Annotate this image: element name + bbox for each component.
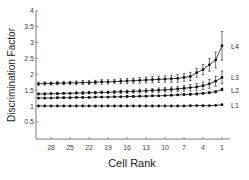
data-point	[69, 96, 72, 99]
data-point	[62, 96, 65, 99]
data-point	[151, 78, 154, 81]
data-point	[75, 92, 78, 95]
data-point	[107, 81, 110, 84]
data-point	[56, 96, 59, 99]
data-point	[145, 79, 148, 82]
data-point	[195, 86, 198, 89]
series-label-l1: L1	[231, 102, 239, 109]
data-point	[145, 95, 148, 98]
data-point	[183, 87, 186, 90]
data-point	[164, 105, 167, 108]
data-point	[126, 90, 129, 93]
data-point	[176, 105, 179, 108]
data-point	[202, 104, 205, 107]
series-l1: L1	[37, 102, 239, 109]
data-point	[75, 105, 78, 108]
data-point	[157, 89, 160, 92]
data-point	[69, 81, 72, 84]
data-point	[126, 105, 129, 108]
data-point	[100, 105, 103, 108]
data-point	[176, 94, 179, 97]
data-point	[107, 96, 110, 99]
data-point	[69, 105, 72, 108]
data-point	[132, 79, 135, 82]
data-point	[100, 96, 103, 99]
data-point	[195, 93, 198, 96]
data-point	[88, 105, 91, 108]
data-point	[221, 103, 224, 106]
data-point	[62, 105, 65, 108]
data-point	[138, 79, 141, 82]
data-point	[170, 77, 173, 80]
data-point	[138, 90, 141, 93]
data-point	[170, 105, 173, 108]
data-point	[43, 82, 46, 85]
data-point	[176, 87, 179, 90]
y-tick-label: 1.5	[24, 87, 34, 94]
series-label-l2: L2	[231, 87, 239, 94]
data-point	[107, 91, 110, 94]
y-tick-label: 1	[30, 103, 34, 110]
data-point	[62, 92, 65, 95]
y-tick-label: 0.5	[24, 118, 34, 125]
data-point	[119, 90, 122, 93]
data-point	[113, 105, 116, 108]
data-point	[113, 91, 116, 94]
data-point	[88, 96, 91, 99]
data-point	[113, 80, 116, 83]
data-point	[107, 105, 110, 108]
data-point	[138, 95, 141, 98]
series-l4: L4	[37, 32, 239, 86]
discrimination-factor-chart: 0.511.522.533.5428252219161310741 L4L3L2…	[0, 0, 249, 180]
data-point	[157, 94, 160, 97]
x-tick-label: 16	[123, 144, 131, 151]
data-point	[214, 90, 217, 93]
data-point	[94, 91, 97, 94]
series-label-l4: L4	[231, 43, 239, 50]
data-point	[94, 81, 97, 84]
data-point	[221, 88, 224, 91]
data-point	[56, 105, 59, 108]
data-point	[164, 88, 167, 91]
data-point	[88, 81, 91, 84]
data-point	[119, 105, 122, 108]
data-point	[50, 105, 53, 108]
data-point	[157, 78, 160, 81]
y-tick-label: 2	[30, 71, 34, 78]
data-point	[56, 82, 59, 85]
data-point	[62, 82, 65, 85]
data-point	[189, 75, 192, 78]
data-point	[50, 92, 53, 95]
data-point	[157, 105, 160, 108]
y-tick-label: 4	[30, 7, 34, 14]
data-point	[164, 94, 167, 97]
data-point	[221, 76, 224, 79]
data-point	[126, 95, 129, 98]
data-point	[189, 93, 192, 96]
data-point	[145, 89, 148, 92]
series-line	[38, 46, 222, 84]
data-point	[183, 93, 186, 96]
data-point	[170, 88, 173, 91]
series-layer: L4L3L2L1	[37, 32, 239, 109]
data-point	[81, 81, 84, 84]
data-point	[170, 94, 173, 97]
data-point	[132, 95, 135, 98]
y-axis-label: Discrimination Factor	[6, 27, 17, 122]
data-point	[208, 91, 211, 94]
data-point	[151, 94, 154, 97]
data-point	[56, 92, 59, 95]
data-point	[132, 90, 135, 93]
data-point	[37, 93, 40, 96]
data-point	[43, 93, 46, 96]
data-point	[81, 92, 84, 95]
data-point	[81, 96, 84, 99]
data-point	[94, 96, 97, 99]
data-point	[214, 104, 217, 107]
data-point	[176, 77, 179, 80]
data-point	[183, 105, 186, 108]
data-point	[94, 105, 97, 108]
data-point	[221, 44, 224, 47]
x-axis-label: Cell Rank	[108, 157, 156, 169]
data-point	[208, 104, 211, 107]
